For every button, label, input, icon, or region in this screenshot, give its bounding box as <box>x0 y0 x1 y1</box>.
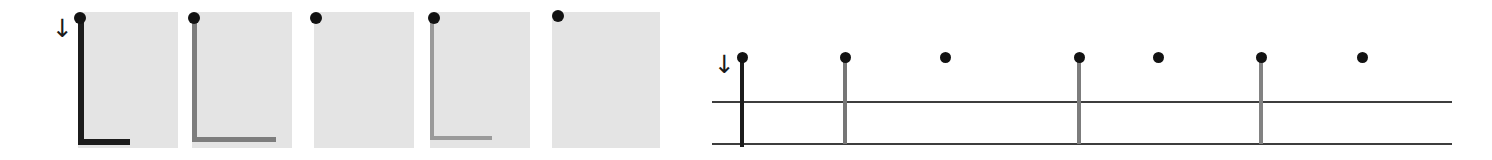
stem-head-dot <box>1153 52 1164 63</box>
stem-line <box>1077 57 1081 144</box>
stem-head-dot <box>1074 52 1085 63</box>
stem-head-dot <box>840 52 851 63</box>
stem-head-dot <box>1357 52 1368 63</box>
stem-head-dot <box>737 52 748 63</box>
baseline-rule-upper <box>712 101 1452 103</box>
stem-head-dot <box>940 52 951 63</box>
stem-head-dot <box>1256 52 1267 63</box>
right-stem-plot <box>0 0 1492 160</box>
baseline-rule-lower <box>712 143 1452 145</box>
down-arrow-annotation-right: ↓ <box>714 52 735 77</box>
stem-line <box>1259 57 1263 144</box>
figure-canvas: ↓ ↓ <box>0 0 1492 160</box>
stem-line <box>740 57 744 147</box>
stem-line <box>843 57 847 144</box>
